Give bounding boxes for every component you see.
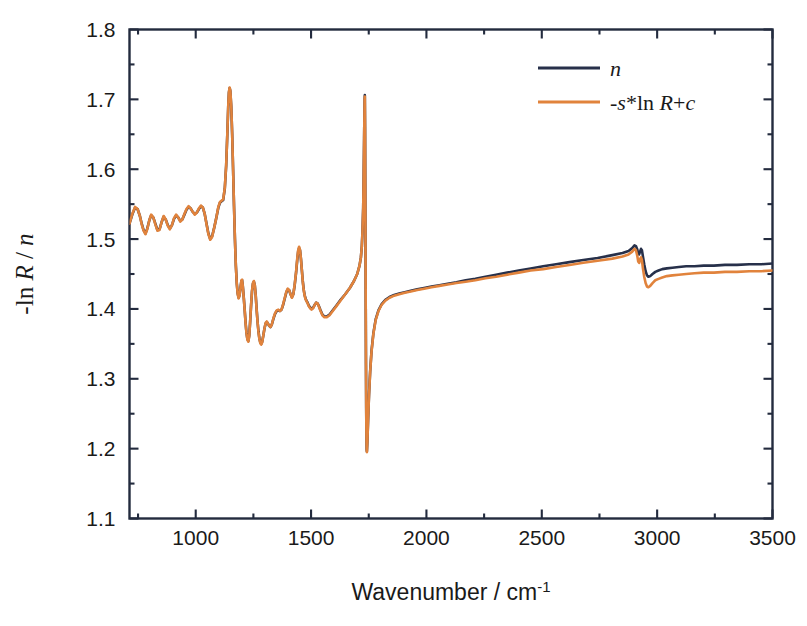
y-tick-label: 1.1 [86, 507, 115, 530]
x-axis-title: Wavenumber / cm-1 [351, 578, 550, 605]
legend-label-fit[interactable]: -s*ln R+c [610, 90, 695, 115]
y-tick-label: 1.7 [86, 88, 115, 111]
x-tick-label: 3500 [749, 526, 796, 549]
x-tick-label: 2000 [403, 526, 450, 549]
x-tick-label: 1000 [172, 526, 219, 549]
y-tick-label: 1.5 [86, 228, 115, 251]
y-tick-label: 1.4 [86, 297, 116, 320]
y-tick-label: 1.2 [86, 437, 115, 460]
x-tick-label: 2500 [518, 526, 565, 549]
y-axis-title: -ln R / n [11, 233, 38, 314]
chart-canvas: 100015002000250030003500 1.11.21.31.41.5… [0, 0, 807, 626]
legend-label-n[interactable]: n [610, 56, 621, 81]
y-tick-label: 1.3 [86, 367, 115, 390]
ir-spectrum-figure: 100015002000250030003500 1.11.21.31.41.5… [0, 0, 807, 626]
y-tick-label: 1.8 [86, 18, 115, 41]
x-tick-label: 3000 [634, 526, 681, 549]
x-tick-label: 1500 [288, 526, 335, 549]
y-axis-title-group: -ln R / n [11, 233, 38, 314]
y-tick-label: 1.6 [86, 158, 115, 181]
